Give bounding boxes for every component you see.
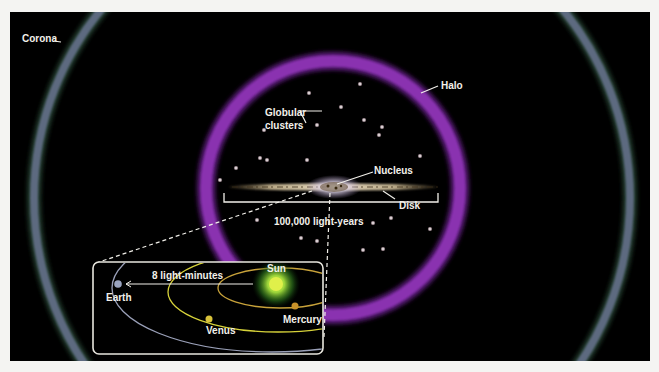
globular-cluster-dot bbox=[298, 235, 303, 240]
mercury-icon bbox=[292, 303, 299, 310]
globular-cluster-dot bbox=[360, 247, 365, 252]
globular-cluster-dot bbox=[417, 153, 422, 158]
halo-label: Halo bbox=[441, 80, 463, 91]
globular-clusters-label-line2: clusters bbox=[265, 120, 304, 131]
globular-cluster-dot bbox=[361, 117, 366, 122]
globular-cluster-dot bbox=[306, 90, 311, 95]
mercury-label: Mercury bbox=[283, 314, 322, 325]
solar-system-inset: 8 light-minutes Sun Mercury Venus Earth bbox=[93, 224, 432, 354]
disk-label: Disk bbox=[399, 200, 421, 211]
sun-label: Sun bbox=[267, 263, 286, 274]
globular-cluster-dot bbox=[314, 122, 319, 127]
galaxy-diagram: Corona Halo Globular clusters Nucleus Di… bbox=[10, 12, 650, 361]
globular-cluster-dot bbox=[338, 104, 343, 109]
venus-icon bbox=[206, 316, 213, 323]
sun-icon bbox=[269, 277, 283, 291]
globular-cluster-dot bbox=[380, 246, 385, 251]
globular-cluster-dot bbox=[304, 157, 309, 162]
globular-cluster-dot bbox=[233, 165, 238, 170]
earth-icon bbox=[114, 280, 122, 288]
globular-cluster-dot bbox=[357, 81, 362, 86]
globular-cluster-dot bbox=[314, 238, 319, 243]
venus-label: Venus bbox=[206, 325, 236, 336]
distance-label: 8 light-minutes bbox=[152, 270, 224, 281]
globular-cluster-dot bbox=[376, 132, 381, 137]
globular-cluster-dot bbox=[388, 215, 393, 220]
globular-cluster-dot bbox=[370, 220, 375, 225]
globular-cluster-dot bbox=[257, 155, 262, 160]
corona-label: Corona bbox=[22, 33, 57, 44]
globular-cluster-dot bbox=[427, 226, 432, 231]
earth-label: Earth bbox=[106, 292, 132, 303]
globular-cluster-dot bbox=[264, 157, 269, 162]
scale-label: 100,000 light-years bbox=[274, 216, 364, 227]
nucleus-label: Nucleus bbox=[374, 165, 413, 176]
globular-cluster-dot bbox=[217, 177, 222, 182]
globular-clusters-label-line1: Globular bbox=[265, 107, 306, 118]
globular-cluster-dot bbox=[254, 217, 259, 222]
globular-cluster-dot bbox=[379, 124, 384, 129]
